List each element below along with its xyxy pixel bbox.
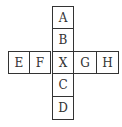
cell-a: A	[52, 6, 74, 29]
cell-x: X	[52, 51, 74, 74]
cell-g: G	[73, 51, 97, 74]
cell-h: H	[96, 51, 119, 74]
cell-e: E	[8, 51, 30, 74]
cell-d: D	[52, 96, 74, 120]
cell-b: B	[52, 28, 74, 52]
cell-f: F	[29, 51, 51, 74]
cell-c: C	[52, 73, 74, 97]
